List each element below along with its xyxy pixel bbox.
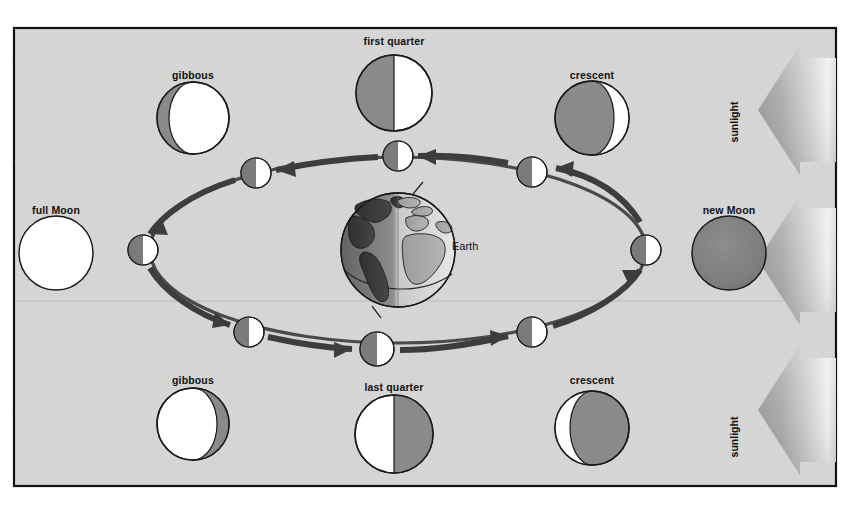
sunlight-label-bottom: sunlight [728,416,740,457]
phase-moon-new [692,216,766,290]
phase-moon-last-quarter-label: last quarter [365,381,424,393]
phase-moon-waning-gibbous [157,388,229,460]
orbit-moon-full [128,235,158,265]
phase-moon-last-quarter [355,395,433,473]
phase-moon-waning-gibbous-label: gibbous [172,374,214,386]
phase-moon-full [19,216,93,290]
orbit-moon-new [631,235,661,265]
phase-moon-full-label: full Moon [32,204,80,216]
phase-moon-waning-crescent-label: crescent [570,374,615,386]
phase-moon-waxing-gibbous-label: gibbous [172,69,214,81]
phase-moon-waxing-gibbous [157,82,229,154]
phase-moon-waxing-crescent [555,81,629,155]
phase-moon-waxing-crescent-label: crescent [570,69,615,81]
moon-phases-diagram: sunlight sunlight [0,0,849,513]
phase-moon-first-quarter-label: first quarter [364,35,425,47]
sunlight-label-top: sunlight [728,101,740,142]
phase-moon-waning-crescent [555,391,629,465]
orbit-moon-waning-cres [517,317,547,347]
orbit-moon-last-quarter [360,332,394,366]
orbit-moon-waxing-cres [517,157,547,187]
earth-label: Earth [452,240,478,252]
orbit-moon-waxing-gib [241,158,271,188]
phase-moon-new-label: new Moon [703,204,756,216]
orbit-moon-first-quarter [383,141,413,171]
phase-moon-first-quarter [356,55,432,131]
orbit-moon-waning-gib [234,317,264,347]
